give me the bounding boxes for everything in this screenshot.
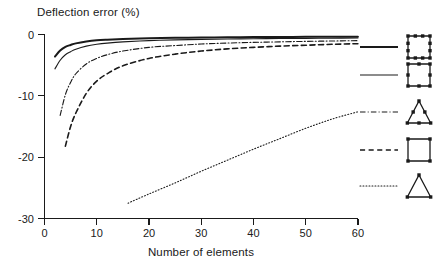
element-node <box>414 34 417 37</box>
element-node <box>421 34 424 37</box>
chart-background <box>0 0 445 267</box>
element-node <box>417 99 420 102</box>
element-node <box>428 159 431 162</box>
element-node <box>428 42 431 45</box>
element-node <box>417 121 420 124</box>
element-node <box>414 56 417 59</box>
element-node <box>406 73 409 76</box>
element-node <box>421 56 424 59</box>
element-node <box>411 110 414 113</box>
chart-figure: Deflection error (%) 0 -10 -20 -30 <box>0 0 445 267</box>
element-node <box>428 62 431 65</box>
element-node <box>406 62 409 65</box>
y-tick-label-0: 0 <box>28 29 34 41</box>
chart-svg: Deflection error (%) 0 -10 -20 -30 <box>0 0 445 267</box>
element-node <box>406 195 409 198</box>
element-node <box>417 84 420 87</box>
y-tick-label-minus10: -10 <box>18 90 34 102</box>
x-tick-label-60: 60 <box>352 227 364 239</box>
element-node <box>406 137 409 140</box>
element-node <box>423 110 426 113</box>
x-axis-title: Number of elements <box>148 246 254 258</box>
element-node <box>428 73 431 76</box>
element-node <box>406 49 409 52</box>
element-node <box>429 121 432 124</box>
element-node <box>428 84 431 87</box>
element-node <box>406 159 409 162</box>
element-node <box>429 195 432 198</box>
x-tick-label-40: 40 <box>247 227 259 239</box>
element-node <box>406 121 409 124</box>
element-node <box>417 173 420 176</box>
element-node <box>428 34 431 37</box>
y-axis-title: Deflection error (%) <box>37 6 140 18</box>
element-node <box>406 42 409 45</box>
x-tick-label-10: 10 <box>91 227 103 239</box>
element-node <box>406 84 409 87</box>
element-node <box>428 137 431 140</box>
y-tick-label-minus20: -20 <box>18 151 34 163</box>
element-node <box>428 49 431 52</box>
x-tick-label-50: 50 <box>300 227 312 239</box>
x-tick-label-0: 0 <box>41 227 47 239</box>
x-tick-label-30: 30 <box>195 227 207 239</box>
element-node <box>417 62 420 65</box>
element-node <box>406 56 409 59</box>
x-tick-label-20: 20 <box>143 227 155 239</box>
element-node <box>406 34 409 37</box>
y-tick-label-minus30: -30 <box>18 213 34 225</box>
element-node <box>428 56 431 59</box>
